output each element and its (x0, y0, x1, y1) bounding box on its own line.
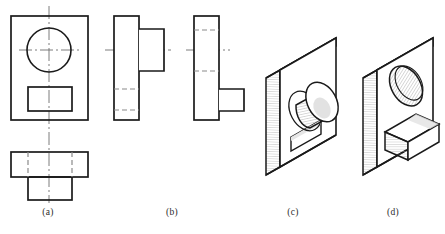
view-a-slot-rectangle (28, 87, 72, 111)
view-b-group (105, 16, 244, 120)
view-b-right-body (194, 16, 219, 120)
technical-drawing-figure: (a) (b) (c) (d) (0, 0, 445, 234)
view-a-plan-wide-rectangle (11, 152, 88, 177)
drawing-canvas (0, 0, 445, 234)
view-a-front-outline (11, 16, 88, 120)
view-b-left-body (114, 16, 139, 120)
view-d-left-side-face (363, 70, 377, 175)
caption-b: (b) (166, 207, 178, 217)
view-b-right-boss (219, 89, 244, 111)
view-b-left-boss (139, 29, 164, 71)
view-a-group (11, 6, 88, 203)
caption-c: (c) (287, 207, 298, 217)
view-a-plan-tab-rectangle (28, 177, 72, 200)
view-c-group (266, 38, 345, 175)
view-d-group (363, 38, 439, 175)
caption-d: (d) (387, 207, 399, 217)
view-c-left-side-face (266, 70, 280, 175)
caption-a: (a) (42, 207, 53, 217)
